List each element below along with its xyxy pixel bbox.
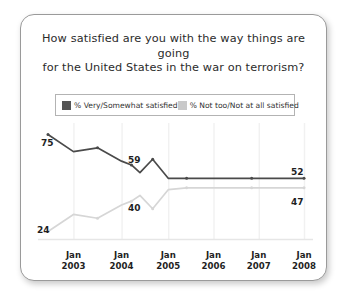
x-tick-year: 2003 — [51, 261, 95, 272]
chart-marker — [303, 177, 306, 180]
chart-line-series1 — [48, 135, 304, 179]
legend-swatch-icon-series2 — [178, 101, 187, 110]
chart-marker — [250, 186, 253, 189]
chart-marker — [96, 217, 99, 220]
x-axis-tick-jan-2004: Jan2004 — [100, 250, 144, 271]
legend-swatch-icon-series1 — [62, 101, 71, 110]
x-tick-year: 2007 — [237, 261, 281, 272]
x-axis-tick-jan-2007: Jan2007 — [237, 250, 281, 271]
chart-marker — [303, 186, 306, 189]
chart-legend: % Very/Somewhat satisfied % Not too/Not … — [55, 94, 295, 116]
chart-title-line-1: How satisfied are you with the way thing… — [35, 32, 312, 61]
x-tick-year: 2008 — [282, 261, 326, 272]
x-axis-tick-jan-2006: Jan2006 — [191, 250, 235, 271]
chart-screenshot: How satisfied are you with the way thing… — [0, 0, 346, 297]
chart-marker — [185, 186, 188, 189]
data-label-75: 75 — [41, 138, 54, 148]
chart-marker — [47, 133, 50, 136]
x-tick-month: Jan — [146, 250, 190, 261]
chart-x-axis-labels: Jan2003Jan2004Jan2005Jan2006Jan2007Jan20… — [38, 250, 313, 280]
chart-markers-series2 — [47, 186, 306, 233]
legend-item-not-too-not-at-all-satisfied: % Not too/Not at all satisfied — [178, 101, 299, 110]
x-axis-tick-jan-2005: Jan2005 — [146, 250, 190, 271]
data-label-52: 52 — [291, 167, 304, 177]
data-label-24: 24 — [37, 225, 50, 235]
chart-gridlines — [74, 123, 305, 239]
chart-marker — [151, 207, 154, 210]
x-tick-month: Jan — [282, 250, 326, 261]
chart-marker — [96, 146, 99, 149]
chart-markers-series1 — [47, 133, 306, 180]
x-tick-year: 2005 — [146, 261, 190, 272]
chart-card: How satisfied are you with the way thing… — [20, 14, 327, 281]
legend-item-very-somewhat-satisfied: % Very/Somewhat satisfied — [62, 101, 178, 110]
x-tick-year: 2006 — [191, 261, 235, 272]
chart-title-line-2: for the United States in the war on terr… — [35, 61, 312, 76]
x-tick-month: Jan — [191, 250, 235, 261]
legend-label-series1: % Very/Somewhat satisfied — [74, 101, 178, 110]
data-label-40: 40 — [128, 203, 141, 213]
x-tick-month: Jan — [100, 250, 144, 261]
chart-marker — [151, 158, 154, 161]
x-tick-month: Jan — [51, 250, 95, 261]
x-tick-year: 2004 — [100, 261, 144, 272]
data-label-47: 47 — [291, 197, 304, 207]
x-tick-month: Jan — [237, 250, 281, 261]
chart-line-series2 — [48, 188, 304, 232]
chart-title: How satisfied are you with the way thing… — [35, 32, 312, 76]
x-axis-tick-jan-2008: Jan2008 — [282, 250, 326, 271]
data-label-59: 59 — [128, 155, 141, 165]
chart-marker — [185, 177, 188, 180]
x-axis-tick-jan-2003: Jan2003 — [51, 250, 95, 271]
legend-label-series2: % Not too/Not at all satisfied — [190, 101, 299, 110]
chart-marker — [250, 177, 253, 180]
